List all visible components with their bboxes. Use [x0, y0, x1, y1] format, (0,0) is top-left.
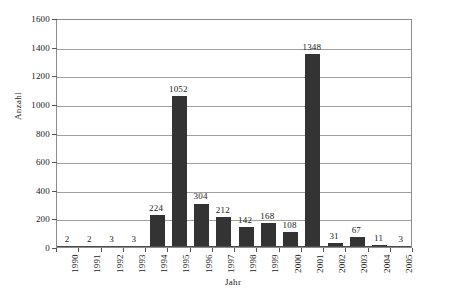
bar-value-1993: 3	[114, 235, 154, 244]
x-tick-label-1993: 1993	[138, 254, 147, 273]
x-tick-mark-1997	[212, 248, 213, 252]
x-tick-mark-2005	[390, 248, 391, 252]
x-tick-mark-1991	[78, 248, 79, 252]
y-tick-mark-1000	[52, 105, 57, 106]
gridline-800	[57, 135, 411, 136]
bar-value-2001: 1348	[292, 43, 332, 52]
x-tick-label-2001: 2001	[316, 254, 325, 273]
x-tick-label-1990: 1990	[71, 254, 80, 273]
y-tick-label-400: 400	[22, 187, 50, 196]
x-tick-mark-1995	[167, 248, 168, 252]
bar-value-1994: 224	[136, 204, 176, 213]
bar-value-1995: 1052	[158, 85, 198, 94]
x-tick-label-1995: 1995	[182, 254, 191, 273]
x-tick-mark-2002	[323, 248, 324, 252]
y-tick-mark-200	[52, 219, 57, 220]
y-tick-mark-400	[52, 191, 57, 192]
x-tick-label-2003: 2003	[360, 254, 369, 273]
y-tick-label-1600: 1600	[22, 15, 50, 24]
y-tick-mark-1400	[52, 48, 57, 49]
gridline-1400	[57, 49, 411, 50]
gridline-1000	[57, 106, 411, 107]
y-tick-mark-600	[52, 162, 57, 163]
bar-2000	[283, 232, 298, 247]
x-tick-mark-1996	[190, 248, 191, 252]
y-tick-label-1400: 1400	[22, 44, 50, 53]
y-tick-label-200: 200	[22, 215, 50, 224]
bar-chart: Anzahl 02004006008001000120014001600 199…	[0, 0, 458, 299]
bar-value-2005: 3	[381, 235, 421, 244]
x-tick-label-2004: 2004	[383, 254, 392, 273]
x-tick-label-2000: 2000	[294, 254, 303, 273]
x-tick-label-1996: 1996	[205, 254, 214, 273]
axis-baseline	[57, 246, 411, 247]
x-tick-label-1997: 1997	[227, 254, 236, 273]
bar-value-1996: 304	[181, 192, 221, 201]
x-tick-mark-2004	[368, 248, 369, 252]
x-tick-mark-1993	[123, 248, 124, 252]
bar-1995	[172, 96, 187, 247]
y-tick-label-0: 0	[22, 244, 50, 253]
y-tick-label-1200: 1200	[22, 72, 50, 81]
x-tick-mark-1990	[56, 248, 57, 252]
y-tick-label-1000: 1000	[22, 101, 50, 110]
x-tick-label-1999: 1999	[271, 254, 280, 273]
x-tick-mark-2001	[301, 248, 302, 252]
y-tick-mark-1200	[52, 76, 57, 77]
gridline-400	[57, 192, 411, 193]
x-tick-mark-1999	[256, 248, 257, 252]
x-tick-mark-end	[412, 248, 413, 252]
gridline-1200	[57, 77, 411, 78]
x-tick-mark-2003	[345, 248, 346, 252]
x-tick-label-1991: 1991	[93, 254, 102, 273]
y-tick-mark-1600	[52, 19, 57, 20]
y-tick-label-600: 600	[22, 158, 50, 167]
x-tick-label-1994: 1994	[160, 254, 169, 273]
x-tick-label-1998: 1998	[249, 254, 258, 273]
bar-value-1997: 212	[203, 206, 243, 215]
bar-2001	[305, 54, 320, 247]
x-tick-mark-1998	[234, 248, 235, 252]
x-tick-label-2002: 2002	[338, 254, 347, 273]
x-tick-label-1992: 1992	[116, 254, 125, 273]
x-tick-mark-1992	[101, 248, 102, 252]
bar-value-2000: 108	[270, 221, 310, 230]
x-tick-mark-2000	[279, 248, 280, 252]
x-tick-label-2005: 2005	[405, 254, 414, 273]
x-tick-mark-1994	[145, 248, 146, 252]
y-tick-label-800: 800	[22, 130, 50, 139]
gridline-600	[57, 163, 411, 164]
bar-1998	[239, 227, 254, 247]
x-axis-title: Jahr	[225, 277, 241, 287]
y-tick-mark-800	[52, 134, 57, 135]
